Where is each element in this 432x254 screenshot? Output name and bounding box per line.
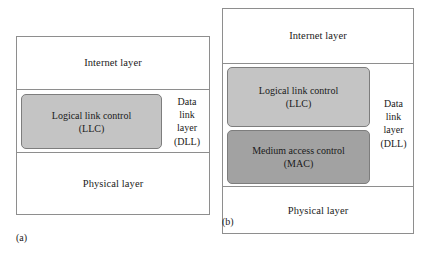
panel-a-internet-layer-row: Internet layer xyxy=(17,37,209,90)
panel-b-dll-line3: layer xyxy=(373,123,414,136)
panel-b-llc-line1: Logical link control xyxy=(259,84,338,97)
panel-a: Internet layer Physical layer Logical li… xyxy=(16,36,210,215)
panel-b-dll-line1: Data xyxy=(373,97,414,110)
panel-b-mac-line1: Medium access control xyxy=(252,144,345,157)
panel-a-dll-line2: link xyxy=(165,108,209,121)
panel-a-llc-line2: (LLC) xyxy=(52,122,131,135)
panel-b-dll-line4: (DLL) xyxy=(373,137,414,150)
panel-a-physical-layer-row: Physical layer xyxy=(17,153,209,215)
panel-a-dll-line4: (DLL) xyxy=(165,135,209,148)
figure-root: Internet layer Physical layer Logical li… xyxy=(0,0,432,254)
panel-a-caption: (a) xyxy=(16,232,27,243)
panel-a-internet-layer-label: Internet layer xyxy=(17,56,209,69)
panel-a-dll-side-label: Data link layer (DLL) xyxy=(165,95,209,148)
panel-b-dll-line2: link xyxy=(373,110,414,123)
panel-b: Internet layer Physical layer Logical li… xyxy=(222,8,414,234)
panel-b-physical-layer-label: Physical layer xyxy=(223,204,413,217)
panel-b-llc-line2: (LLC) xyxy=(259,97,338,110)
panel-a-physical-layer-label: Physical layer xyxy=(17,177,209,190)
panel-b-mac-line2: (MAC) xyxy=(252,157,345,170)
panel-b-dll-side-label: Data link layer (DLL) xyxy=(373,97,414,150)
panel-b-internet-layer-row: Internet layer xyxy=(223,9,413,64)
panel-b-mac-text: Medium access control (MAC) xyxy=(252,144,345,170)
panel-b-mac-block: Medium access control (MAC) xyxy=(227,130,370,184)
panel-a-llc-line1: Logical link control xyxy=(52,109,131,122)
panel-a-llc-text: Logical link control (LLC) xyxy=(52,109,131,135)
panel-a-llc-block: Logical link control (LLC) xyxy=(21,94,162,149)
panel-b-physical-layer-row: Physical layer xyxy=(223,187,413,234)
panel-a-dll-line1: Data xyxy=(165,95,209,108)
panel-b-caption: (b) xyxy=(222,216,234,227)
panel-b-internet-layer-label: Internet layer xyxy=(223,29,413,42)
panel-b-llc-block: Logical link control (LLC) xyxy=(227,67,370,127)
panel-b-llc-text: Logical link control (LLC) xyxy=(259,84,338,110)
panel-a-dll-line3: layer xyxy=(165,121,209,134)
